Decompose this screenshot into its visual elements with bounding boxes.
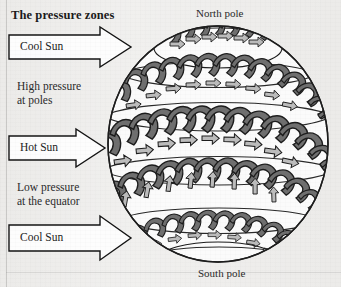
high-pressure-label-line2: at poles [17, 93, 52, 107]
south-pole-label: South pole [198, 267, 245, 279]
page-title: The pressure zones [11, 8, 114, 23]
pressure-zones-globe [96, 18, 341, 273]
high-pressure-label-line1: High pressure [17, 79, 81, 93]
cool-sun-arrow-top: Cool Sun [8, 26, 132, 68]
low-pressure-label-line2: at the equator [17, 194, 80, 208]
figure-canvas: The pressure zones North pole South pole… [0, 0, 341, 287]
low-pressure-label-line1: Low pressure [17, 180, 79, 194]
cool-sun-arrow-bottom-label: Cool Sun [20, 231, 63, 243]
hot-sun-arrow-middle: Hot Sun [8, 128, 106, 168]
left-frame-rule [6, 0, 7, 287]
cool-sun-arrow-bottom: Cool Sun [8, 215, 132, 261]
hot-sun-arrow-middle-label: Hot Sun [20, 141, 58, 153]
north-pole-label: North pole [196, 7, 243, 19]
cool-sun-arrow-top-label: Cool Sun [20, 40, 63, 52]
